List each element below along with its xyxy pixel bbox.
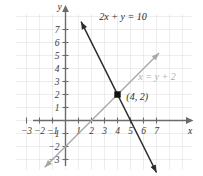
x-tick-label: −3	[21, 126, 32, 136]
x-axis-arrowhead	[186, 117, 194, 124]
y-tick-label: 6	[55, 38, 60, 48]
intersection-point-marker	[114, 91, 120, 97]
series-equation-labels: 2x + y = 10x = y + 2	[99, 11, 175, 82]
coordinate-plane-chart: −3−2−11234567−3−2−11234567 (4, 2) 2x + y…	[0, 0, 203, 176]
x-tick-label: 7	[154, 126, 160, 136]
y-tick-label: −2	[48, 142, 59, 152]
x-tick-label: 6	[141, 126, 146, 136]
data-points: (4, 2)	[114, 91, 148, 103]
y-tick-label: 5	[55, 51, 60, 61]
equation-label-2: x = y + 2	[137, 71, 175, 82]
y-axis-label: y	[56, 2, 62, 12]
graph-figure: −3−2−11234567−3−2−11234567 (4, 2) 2x + y…	[0, 0, 203, 176]
y-tick-label: 3	[54, 77, 60, 87]
x-tick-label: 2	[89, 126, 94, 136]
intersection-point-label: (4, 2)	[126, 91, 148, 103]
y-tick-label: 7	[55, 25, 61, 35]
series-arrowhead-start-1	[81, 22, 87, 30]
x-tick-label: −2	[34, 126, 45, 136]
grid-lines	[16, 14, 192, 170]
series-line-2	[45, 53, 159, 167]
y-tick-label: 2	[55, 90, 60, 100]
x-tick-label: 5	[128, 126, 133, 136]
equation-label-1: 2x + y = 10	[99, 11, 146, 22]
x-axis-label: x	[187, 126, 193, 136]
y-tick-label: −1	[48, 129, 59, 139]
x-tick-label: 3	[101, 126, 107, 136]
y-tick-label: 4	[55, 64, 60, 74]
series-arrowhead-end-1	[151, 164, 157, 172]
y-tick-label: 1	[55, 103, 60, 113]
x-tick-label: 4	[115, 126, 120, 136]
y-axis-arrowhead	[62, 5, 69, 12]
